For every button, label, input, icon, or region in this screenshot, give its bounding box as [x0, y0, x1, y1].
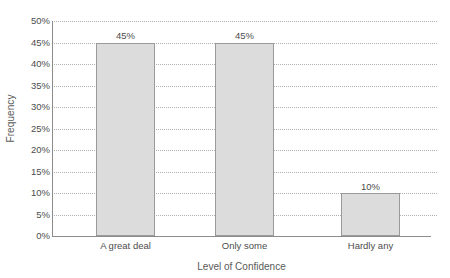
y-tick-label: 45% [18, 38, 50, 48]
y-tick-label: 10% [18, 188, 50, 198]
x-tick-label: Only some [190, 240, 299, 252]
x-tick-label: A great deal [71, 240, 180, 252]
y-tick-label: 25% [18, 124, 50, 134]
y-axis-title-label: Frequency [5, 94, 16, 142]
y-axis-tick-labels: 50% 45% 40% 35% 30% 25% 20% 15% 10% 5% 0… [18, 0, 50, 250]
y-axis-line [52, 21, 53, 236]
y-tick-label: 15% [18, 167, 50, 177]
y-tick-label: 35% [18, 81, 50, 91]
y-tick-label: 20% [18, 145, 50, 155]
bar-value-label: 10% [341, 181, 400, 192]
y-tick-label: 5% [18, 210, 50, 220]
x-tick-label: Hardly any [316, 240, 425, 252]
plot-area [52, 21, 437, 236]
bar [96, 43, 155, 237]
y-tick-label: 50% [18, 16, 50, 26]
bar-value-label: 45% [96, 30, 155, 41]
x-axis-line [52, 236, 431, 237]
bar [215, 43, 274, 237]
y-tick-label: 30% [18, 102, 50, 112]
bar [341, 193, 400, 236]
x-axis-title: Level of Confidence [52, 261, 431, 272]
bar-value-label: 45% [215, 30, 274, 41]
gridline [52, 21, 437, 22]
bar-chart: Frequency 50% 45% 40% 35% 30% 25% 20% 15… [0, 0, 450, 278]
y-axis-title: Frequency [0, 0, 20, 236]
y-tick-label: 0% [18, 231, 50, 241]
y-tick-label: 40% [18, 59, 50, 69]
